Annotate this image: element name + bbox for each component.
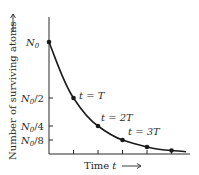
decay-curve: [49, 42, 186, 152]
point-t5: [169, 148, 174, 153]
decay-chart: N0 N0/2 N0/4 N0/8 t = T t = 2T t = 3T Ti…: [0, 0, 199, 175]
y-tick-eighth: N0/8: [20, 135, 44, 148]
y-tick-half: N0/2: [20, 93, 44, 106]
annotation-t2: t = 2T: [101, 112, 134, 123]
x-axis-arrow-icon: [122, 164, 141, 169]
y-tick-n0: N0: [25, 37, 40, 50]
annotation-t3: t = 3T: [128, 126, 161, 137]
point-t1: [71, 96, 76, 101]
point-t2: [96, 124, 101, 129]
x-axis-label: Timet: [84, 160, 117, 171]
annotation-t1: t = T: [79, 90, 106, 101]
y-axis-label: Number of surviving atoms: [7, 21, 18, 160]
y-ticks: [49, 98, 53, 140]
point-t4: [145, 145, 150, 150]
x-ticks: [74, 150, 172, 154]
y-tick-quarter: N0/4: [20, 121, 44, 134]
point-t0: [47, 40, 52, 45]
point-t3: [120, 138, 125, 143]
